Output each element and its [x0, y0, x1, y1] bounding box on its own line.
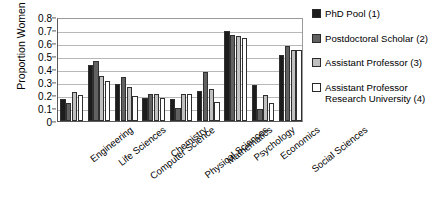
y-axis-tick-mark	[52, 56, 56, 57]
bar	[72, 92, 77, 121]
legend-item: Assistant Professor (3)	[312, 57, 444, 69]
bar-group	[222, 19, 249, 121]
y-axis-tick-label: 0.1	[38, 104, 52, 115]
bar	[160, 98, 165, 121]
bar	[187, 94, 192, 121]
y-axis-tick-mark	[52, 43, 56, 44]
bar-group	[140, 19, 167, 121]
bar	[209, 89, 214, 122]
bar	[60, 99, 65, 121]
bar	[224, 31, 229, 121]
legend-label: Assistant Professor (3)	[325, 57, 422, 69]
y-axis-tick-label: 0.2	[38, 91, 52, 102]
bar	[121, 77, 126, 121]
y-axis-tick-label: 0.4	[38, 65, 52, 76]
bar	[214, 102, 219, 121]
bar	[263, 95, 268, 121]
bar	[170, 99, 175, 121]
bar	[242, 38, 247, 121]
bar	[99, 76, 104, 121]
legend-swatch-icon	[312, 34, 321, 43]
bar	[78, 95, 83, 121]
legend-swatch-icon	[312, 58, 321, 67]
bar	[142, 98, 147, 121]
y-axis-tick-label: 0.6	[38, 39, 52, 50]
legend-item: Postdoctoral Scholar (2)	[312, 33, 444, 45]
x-axis-tick-labels: EngineeringLife SciencesComputer Science…	[57, 124, 307, 204]
bar	[230, 35, 235, 121]
y-axis-tick-mark	[52, 95, 56, 96]
bar	[148, 94, 153, 121]
bar	[105, 81, 110, 121]
bar-series-container	[58, 19, 302, 121]
y-axis-tick-mark	[52, 82, 56, 83]
y-axis-tick-mark	[52, 108, 56, 109]
bar	[203, 72, 208, 121]
bar	[285, 46, 290, 121]
bar	[93, 61, 98, 121]
bar	[269, 103, 274, 121]
legend-label: Assistant ProfessorResearch University (…	[325, 82, 425, 105]
bar	[296, 50, 301, 121]
bar	[132, 96, 137, 121]
bar	[291, 50, 296, 122]
legend-label: Postdoctoral Scholar (2)	[325, 33, 428, 45]
bar	[66, 103, 71, 121]
legend-item: Assistant ProfessorResearch University (…	[312, 82, 444, 105]
bar	[115, 84, 120, 121]
bar-group	[249, 19, 276, 121]
legend-swatch-icon	[312, 9, 321, 18]
y-axis-tick-label: 0.5	[38, 52, 52, 63]
legend-label: PhD Pool (1)	[325, 8, 380, 20]
legend-swatch-icon	[312, 83, 321, 92]
bar-chart-figure: Proportion Women 00.10.20.30.40.50.60.70…	[0, 0, 446, 215]
bar	[257, 109, 262, 121]
bar-group	[58, 19, 85, 121]
bar-group	[85, 19, 112, 121]
bar-group	[167, 19, 194, 121]
y-axis-tick-mark	[52, 30, 56, 31]
bar	[154, 94, 159, 121]
bar	[197, 91, 202, 121]
y-axis-tick-mark	[52, 17, 56, 18]
bar	[88, 65, 93, 121]
bar	[127, 87, 132, 121]
y-axis-tick-label: 0.3	[38, 78, 52, 89]
y-axis-tick-label: 0.7	[38, 26, 52, 37]
bar	[252, 85, 257, 121]
bar-group	[277, 19, 304, 121]
bar	[175, 108, 180, 121]
y-axis-tick-label: 0.8	[38, 13, 52, 24]
plot-area	[57, 18, 303, 122]
y-axis-tick-mark	[52, 121, 56, 122]
bar-group	[113, 19, 140, 121]
bar-group	[195, 19, 222, 121]
bar	[236, 36, 241, 121]
legend-item: PhD Pool (1)	[312, 8, 444, 20]
bar	[181, 94, 186, 121]
bar	[279, 55, 284, 121]
y-axis-tick-mark	[52, 69, 56, 70]
y-axis-tick-labels: 00.10.20.30.40.50.60.70.8	[26, 12, 56, 122]
chart-legend: PhD Pool (1)Postdoctoral Scholar (2)Assi…	[312, 8, 444, 118]
